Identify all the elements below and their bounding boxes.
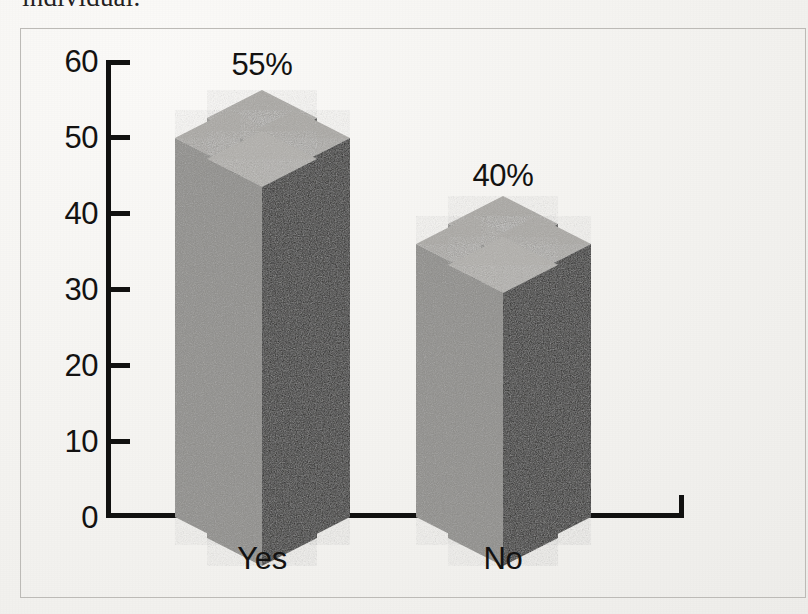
- y-tick-label-40: 40: [28, 196, 98, 232]
- y-tick-label-50: 50: [28, 120, 98, 156]
- data-label-yes: 55%: [202, 47, 322, 83]
- y-tick-label-30: 30: [28, 272, 98, 308]
- y-tick-label-0: 0: [28, 500, 98, 536]
- body-text-fragment: individual.: [22, 0, 140, 13]
- x-tick-label-no: No: [443, 541, 563, 577]
- y-tick-label-60: 60: [28, 44, 98, 80]
- figure-frame: [20, 28, 806, 598]
- y-tick-label-20: 20: [28, 348, 98, 384]
- data-label-no: 40%: [443, 158, 563, 194]
- x-tick-label-yes: Yes: [202, 541, 322, 577]
- y-tick-label-10: 10: [28, 424, 98, 460]
